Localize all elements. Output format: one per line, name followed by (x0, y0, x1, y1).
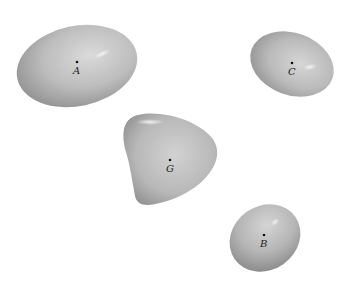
body-g: G (123, 113, 217, 204)
diagram-canvas: A C G B (0, 0, 349, 286)
label-a: A (72, 65, 80, 76)
body-a: A (9, 14, 145, 118)
label-g: G (166, 163, 174, 174)
centroid-dot-a (76, 61, 79, 64)
body-c: C (241, 20, 343, 108)
label-b: B (259, 238, 267, 249)
label-c: C (288, 66, 296, 77)
centroid-dot-c (291, 62, 294, 65)
centroid-dot-b (263, 234, 266, 237)
body-b: B (216, 191, 313, 286)
centroid-dot-g (169, 159, 172, 162)
